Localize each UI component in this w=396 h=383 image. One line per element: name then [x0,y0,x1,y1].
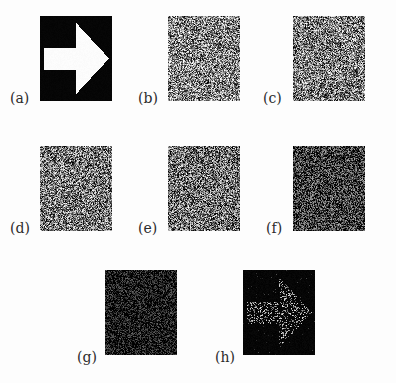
panel-canvas-f [293,146,365,231]
panel-image-d [40,146,112,231]
figure-panel-grid: (a)(b)(c)(d)(e)(f)(g)(h) [0,0,396,383]
panel-label-h: (h) [215,350,235,364]
panel-image-e [168,146,240,231]
panel-canvas-b [168,16,240,101]
panel-canvas-e [168,146,240,231]
panel-image-g [105,270,177,355]
panel-canvas-h [243,270,315,355]
panel-canvas-a [40,16,112,101]
panel-canvas-c [293,16,365,101]
panel-label-c: (c) [263,91,282,105]
panel-label-f: (f) [266,221,282,235]
panel-canvas-g [105,270,177,355]
panel-canvas-d [40,146,112,231]
panel-label-a: (a) [10,91,29,105]
panel-label-b: (b) [138,91,158,105]
panel-image-c [293,16,365,101]
panel-image-f [293,146,365,231]
panel-image-b [168,16,240,101]
panel-label-e: (e) [138,221,157,235]
panel-label-g: (g) [77,350,97,364]
panel-image-a [40,16,112,101]
panel-label-d: (d) [10,221,30,235]
panel-image-h [243,270,315,355]
